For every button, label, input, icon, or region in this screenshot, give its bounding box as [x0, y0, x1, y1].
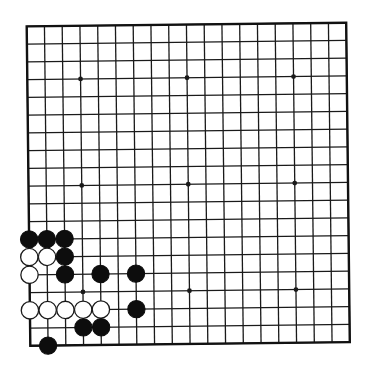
white-stone-icon	[92, 301, 110, 319]
black-stone-icon	[128, 300, 146, 318]
star-point-icon	[294, 287, 299, 292]
white-stone-icon	[21, 302, 39, 320]
white-stone-icon	[38, 248, 56, 266]
star-point-icon	[79, 183, 84, 188]
white-stone-icon	[21, 266, 39, 284]
white-stone-icon	[39, 301, 57, 319]
black-stone-icon	[75, 319, 93, 337]
black-stone-icon	[92, 265, 110, 283]
star-point-icon	[291, 74, 296, 79]
star-point-icon	[186, 182, 191, 187]
board-grid-group	[18, 23, 350, 355]
black-stone-icon	[92, 318, 110, 336]
go-board[interactable]	[0, 0, 369, 382]
black-stone-icon	[20, 231, 38, 249]
black-stone-icon	[56, 230, 74, 248]
black-stone-icon	[38, 230, 56, 248]
black-stone-icon	[39, 337, 57, 355]
white-stone-icon	[74, 301, 92, 319]
black-stone-icon	[56, 248, 74, 266]
star-point-icon	[292, 181, 297, 186]
go-board-container	[0, 0, 369, 382]
star-point-icon	[187, 288, 192, 293]
white-stone-icon	[21, 248, 39, 266]
star-point-icon	[81, 290, 86, 295]
black-stone-icon	[56, 266, 74, 284]
white-stone-icon	[57, 301, 75, 319]
star-points	[78, 74, 298, 294]
star-point-icon	[185, 75, 190, 80]
black-stone-icon	[127, 265, 145, 283]
star-point-icon	[78, 77, 83, 82]
